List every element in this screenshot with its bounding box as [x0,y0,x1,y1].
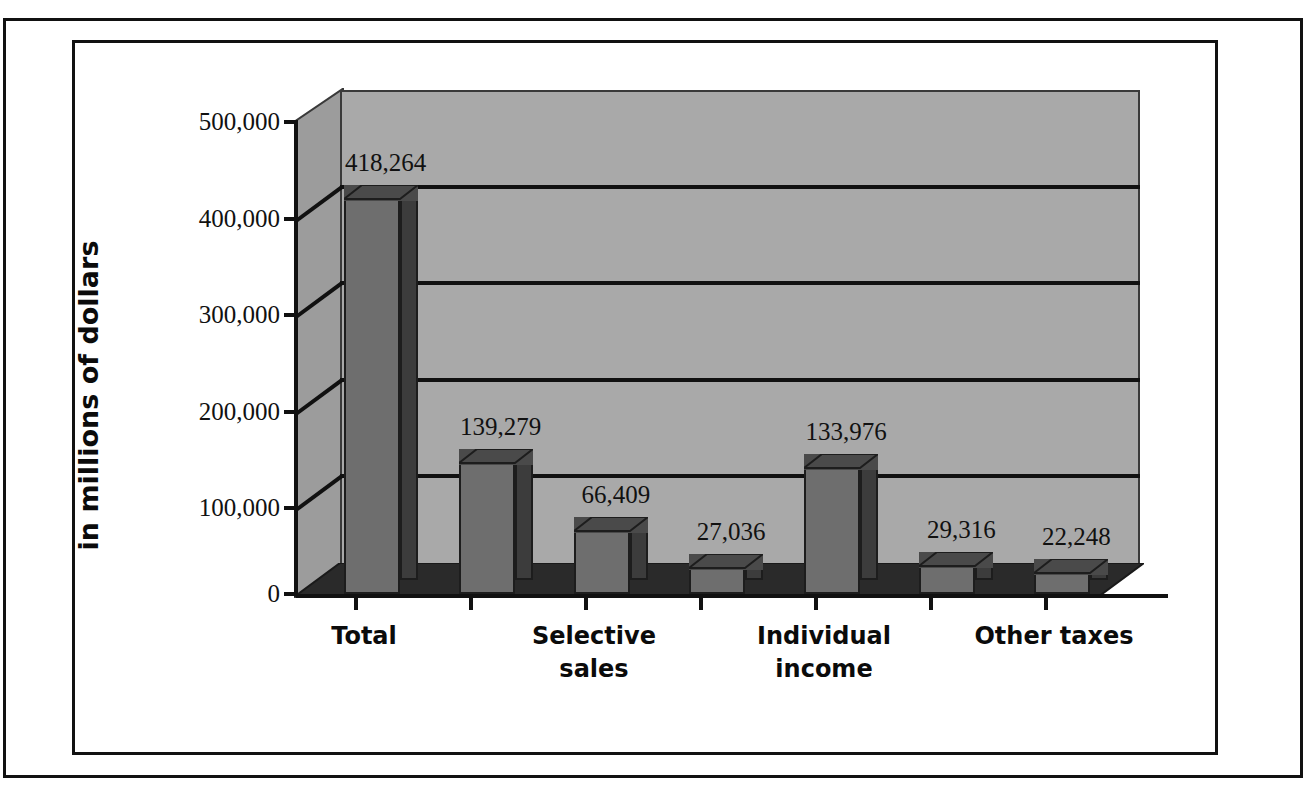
x-axis-tick-mark [354,594,358,610]
y-tick-mark-100000 [284,506,298,510]
bar-side-face [400,185,418,580]
x-axis-category-label: Selectivesales [484,620,704,686]
y-axis-title: in millions of dollars [73,251,104,551]
y-tick-mark-400000 [284,217,298,221]
bar-column[interactable] [574,517,648,594]
bar-side-face [860,454,878,580]
x-axis-label-line: income [714,653,934,686]
bar-front-face [574,531,630,594]
bar-top-face [459,449,533,465]
y-axis-tick-labels: 500,000 400,000 300,000 200,000 100,000 … [170,0,280,802]
x-axis-label-line: Total [254,620,474,653]
bar-front-face [804,468,860,594]
gridline-400000 [340,185,1140,189]
bar-column[interactable] [344,185,418,594]
y-tick-mark-300000 [284,313,298,317]
y-tick-mark-200000 [284,410,298,414]
bar-top-face [344,185,418,201]
bar-side-face [515,449,533,580]
x-axis-category-label: Other taxes [944,620,1164,653]
gridline-300000 [340,281,1140,285]
bar-chart: in millions of dollars 500,000 [0,0,1314,802]
y-tick-label-500000: 500,000 [160,108,280,136]
bar-value-label: 29,316 [927,516,996,544]
bar-column[interactable] [1034,559,1108,594]
x-axis-tick-mark [469,594,473,610]
bar-column[interactable] [689,554,763,594]
x-axis-tick-mark [699,594,703,610]
plot-left-wall [294,88,344,598]
bar-value-label: 133,976 [806,418,887,446]
chart-page: in millions of dollars 500,000 [0,0,1314,802]
bar-column[interactable] [804,454,878,594]
bar-front-face [919,566,975,594]
bar-column[interactable] [919,552,993,594]
x-axis-tick-mark [814,594,818,610]
x-axis-tick-mark [929,594,933,610]
y-tick-label-400000: 400,000 [160,205,280,233]
y-tick-label-200000: 200,000 [160,398,280,426]
bar-front-face [689,568,745,594]
y-axis-line [294,122,298,594]
x-axis-line [296,594,1168,598]
bar-value-label: 66,409 [581,481,650,509]
x-axis-label-line: Other taxes [944,620,1164,653]
bar-top-face [1034,559,1108,575]
x-axis-category-label: Individualincome [714,620,934,686]
bar-value-label: 27,036 [697,518,766,546]
bar-front-face [1034,573,1090,594]
x-axis-tick-mark [584,594,588,610]
y-tick-label-100000: 100,000 [160,494,280,522]
bar-column[interactable] [459,449,533,594]
bar-front-face [344,199,400,594]
y-tick-label-0: 0 [160,580,280,608]
bar-top-face [919,552,993,568]
bar-value-label: 22,248 [1042,523,1111,551]
x-axis-label-line: Individual [714,620,934,653]
x-axis-tick-mark [1044,594,1048,610]
gridline-200000 [340,378,1140,382]
bar-top-face [574,517,648,533]
y-tick-label-300000: 300,000 [160,301,280,329]
x-axis-label-line: sales [484,653,704,686]
bar-top-face [689,554,763,570]
x-axis-label-line: Selective [484,620,704,653]
bar-value-label: 139,279 [460,413,541,441]
x-axis-category-label: Total [254,620,474,653]
y-tick-mark-0 [284,592,298,596]
bar-value-label: 418,264 [345,149,426,177]
bar-top-face [804,454,878,470]
y-tick-mark-500000 [284,120,298,124]
bar-front-face [459,463,515,594]
